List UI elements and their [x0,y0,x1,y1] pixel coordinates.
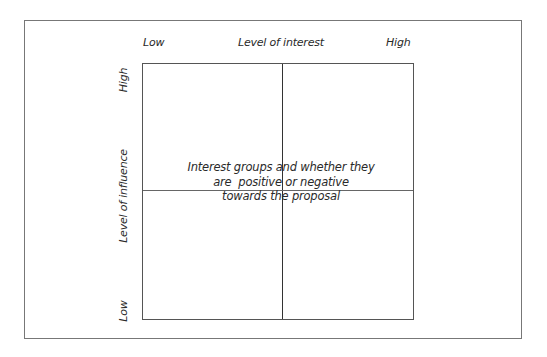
y-axis-title: Level of influence [117,149,130,243]
center-annotation-line: Interest groups and whether they [187,160,374,175]
x-axis-high-label: High [386,36,410,49]
x-axis-title: Level of interest [238,36,324,49]
center-annotation: Interest groups and whether they are pos… [187,160,374,204]
y-axis-low-label: Low [117,300,130,321]
center-annotation-line: towards the proposal [187,189,374,204]
y-axis-high-label: High [117,68,130,92]
center-annotation-line: are positive or negative [187,175,374,190]
x-axis-low-label: Low [143,36,164,49]
